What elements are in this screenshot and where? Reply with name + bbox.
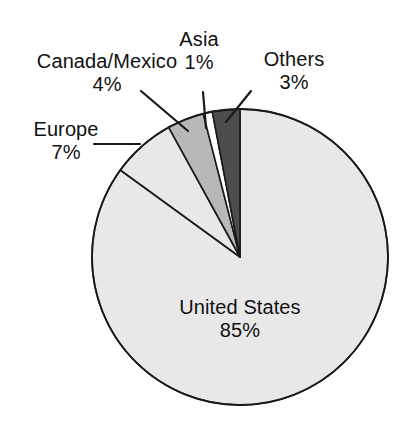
pie-label-canada-mexico-value: 4%: [14, 73, 200, 96]
pie-label-europe-name: Europe: [8, 118, 124, 141]
pie-label-united-states-name: United States: [166, 296, 314, 319]
pie-label-united-states-value: 85%: [166, 319, 314, 342]
pie-label-united-states: United States 85%: [166, 296, 314, 342]
pie-label-others-value: 3%: [244, 71, 344, 94]
pie-label-europe-value: 7%: [8, 141, 124, 164]
pie-label-others-name: Others: [244, 48, 344, 71]
pie-label-others: Others 3%: [244, 48, 344, 94]
pie-label-europe: Europe 7%: [8, 118, 124, 164]
leader-line-canada-mexico: [141, 91, 188, 131]
pie-label-asia: Asia 1%: [166, 28, 232, 74]
pie-label-asia-value: 1%: [166, 51, 232, 74]
pie-label-asia-name: Asia: [166, 28, 232, 51]
pie-chart: Canada/Mexico 4% Asia 1% Others 3% Europ…: [0, 0, 409, 431]
pie-slices: [92, 109, 388, 405]
